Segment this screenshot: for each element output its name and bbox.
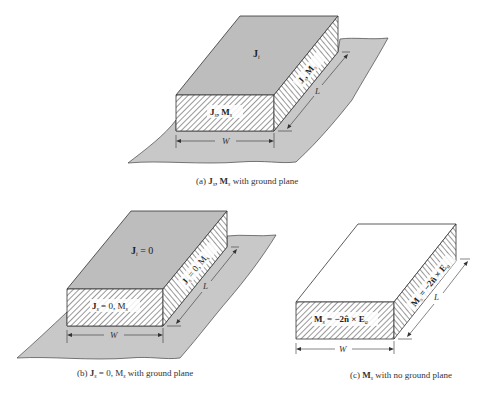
svg-text:L: L <box>433 292 439 302</box>
caption-b: (b) Js = 0, Ms with ground plane <box>77 368 193 379</box>
panel-b: Jt = 0 Js = 0, Ms Js = 0, Ms W L (b) Js … <box>17 211 276 379</box>
panel-c: Ms = −2n̂ × Ea Ms = −2n̂ × Ea W L (c) Ms… <box>296 224 470 381</box>
svg-text:L: L <box>202 281 208 291</box>
width-dimension: W <box>296 341 394 354</box>
svg-text:W: W <box>339 344 348 354</box>
panel-a: Jt Js, Ms Js, Ms W L (a) Js, Ms wi <box>128 16 388 187</box>
caption-a: (a) Js, Ms with ground plane <box>196 176 298 187</box>
caption-c: (c) Ms with no ground plane <box>350 370 452 381</box>
svg-text:L: L <box>314 86 320 96</box>
front-face-label: Js, Ms <box>210 107 233 118</box>
front-face-label: Ms = −2n̂ × Ea <box>314 314 368 325</box>
top-face-label: Jt = 0 <box>131 245 153 257</box>
aperture-diagram: Jt Js, Ms Js, Ms W L (a) Js, Ms wi <box>0 0 483 393</box>
